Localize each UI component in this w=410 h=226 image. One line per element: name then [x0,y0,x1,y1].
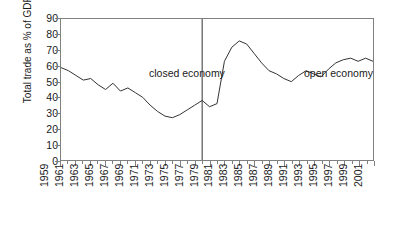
x-tick-mark-minor [67,161,68,164]
x-tick-label: 1967 [98,147,110,187]
x-tick-mark-minor [277,161,278,164]
x-tick-label: 1965 [83,147,95,187]
x-tick-mark-minor [187,161,188,164]
x-tick-mark-minor [157,161,158,164]
x-tick-mark-minor [247,161,248,164]
y-tick-mark [55,145,60,146]
x-tick-label: 1959 [38,147,50,187]
x-tick-mark-minor [82,161,83,164]
x-tick-mark-minor [112,161,113,164]
x-tick-label: 2001 [352,147,364,187]
x-tick-label: 1961 [53,147,65,187]
y-tick-mark [55,97,60,98]
x-tick-mark-minor [367,161,368,164]
x-tick-label: 1963 [68,147,80,187]
x-tick-mark-minor [142,161,143,164]
x-tick-label: 1971 [128,147,140,187]
x-tick-label: 1983 [217,147,229,187]
x-tick-mark-minor [172,161,173,164]
x-tick-label: 1997 [322,147,334,187]
series-line-svg [61,19,373,160]
x-tick-mark-minor [307,161,308,164]
x-tick-mark-minor [292,161,293,164]
x-tick-label: 1969 [113,147,125,187]
x-tick-mark-minor [202,161,203,164]
y-tick-mark [55,82,60,83]
y-tick-mark [55,50,60,51]
x-axis-tick-labels: 1959196119631965196719691971197319751977… [60,161,374,226]
x-tick-mark-minor [352,161,353,164]
x-tick-mark-minor [262,161,263,164]
y-tick-mark [55,113,60,114]
x-tick-mark-minor [232,161,233,164]
y-axis-title: Total trade as % of GDP [22,0,33,125]
x-tick-mark-minor [322,161,323,164]
chart-figure: Total trade as % of GDP 9080706050403020… [0,0,410,226]
y-tick-mark [55,161,60,162]
x-tick-label: 1973 [143,147,155,187]
x-tick-label: 1989 [262,147,274,187]
annotation-closed-economy: closed economy [149,67,225,79]
x-tick-label: 1985 [232,147,244,187]
x-tick-label: 1981 [202,147,214,187]
x-tick-label: 1977 [173,147,185,187]
x-tick-label: 1991 [277,147,289,187]
x-tick-label: 1999 [337,147,349,187]
data-series-line [61,41,373,118]
y-tick-mark [55,66,60,67]
x-tick-mark-minor [97,161,98,164]
x-tick-label: 1993 [292,147,304,187]
y-tick-mark [55,34,60,35]
x-tick-mark-minor [127,161,128,164]
x-tick-mark-minor [337,161,338,164]
x-tick-mark [374,161,375,166]
x-tick-label: 1975 [158,147,170,187]
x-tick-label: 1987 [247,147,259,187]
y-tick-mark [55,129,60,130]
x-tick-label: 1995 [307,147,319,187]
plot-area: closed economy open economy [60,18,374,161]
y-tick-mark [55,18,60,19]
x-tick-mark-minor [217,161,218,164]
x-tick-label: 1979 [188,147,200,187]
annotation-open-economy: open economy [304,67,373,79]
